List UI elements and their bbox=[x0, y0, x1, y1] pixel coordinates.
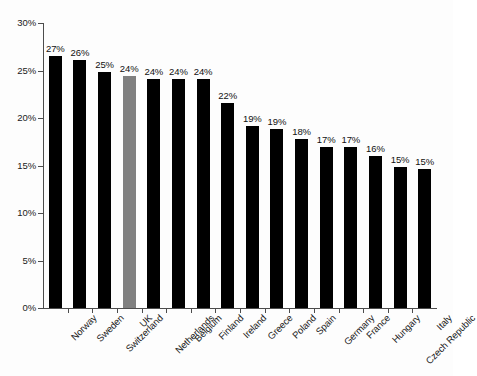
y-axis-tick-mark bbox=[38, 213, 43, 214]
bar-value-label: 26% bbox=[64, 48, 96, 58]
bar bbox=[320, 147, 333, 309]
bar bbox=[270, 129, 283, 308]
x-axis-category-label: Poland bbox=[290, 313, 317, 340]
bar-value-label: 17% bbox=[335, 135, 367, 145]
y-axis-tick-label: 0% bbox=[22, 303, 36, 313]
bar-value-label: 19% bbox=[261, 117, 293, 127]
plot-area: 0%5%10%15%20%25%30% 27%26%25%24%24%24%24… bbox=[43, 23, 437, 308]
x-axis-category-label: Ireland bbox=[241, 313, 268, 340]
bar bbox=[246, 126, 259, 308]
bar-value-label: 16% bbox=[359, 144, 391, 154]
bar bbox=[172, 79, 185, 308]
bar bbox=[369, 156, 382, 308]
bar bbox=[221, 103, 234, 308]
x-axis-tick-mark bbox=[265, 308, 266, 313]
y-axis-tick-label: 15% bbox=[17, 161, 36, 171]
bar bbox=[98, 72, 111, 308]
x-axis-tick-mark bbox=[339, 308, 340, 313]
bar bbox=[344, 147, 357, 309]
x-axis-tick-mark bbox=[314, 308, 315, 313]
y-axis-tick-mark bbox=[38, 308, 43, 309]
x-axis-category-label: Spain bbox=[314, 313, 338, 337]
y-axis-tick-mark bbox=[38, 23, 43, 24]
x-axis-tick-mark bbox=[240, 308, 241, 313]
x-axis-category-label: Norway bbox=[70, 313, 99, 342]
y-axis-tick-mark bbox=[38, 118, 43, 119]
x-axis-tick-mark bbox=[289, 308, 290, 313]
bar-value-label: 24% bbox=[187, 67, 219, 77]
y-axis-tick-mark bbox=[38, 166, 43, 167]
y-axis-tick-label: 25% bbox=[17, 66, 36, 76]
x-axis-category-label: Italy bbox=[435, 313, 454, 332]
bar bbox=[123, 76, 136, 308]
bar bbox=[295, 139, 308, 308]
bar bbox=[147, 79, 160, 308]
x-axis-tick-mark bbox=[68, 308, 69, 313]
y-axis-tick-label: 30% bbox=[17, 18, 36, 28]
y-axis-tick-label: 5% bbox=[22, 256, 36, 266]
x-axis-category-label: Greece bbox=[266, 313, 294, 341]
y-axis-tick-mark bbox=[38, 71, 43, 72]
y-axis-tick-mark bbox=[38, 261, 43, 262]
bar-value-label: 22% bbox=[212, 91, 244, 101]
x-axis-tick-mark bbox=[388, 308, 389, 313]
x-axis-category-label: Sweden bbox=[95, 313, 126, 344]
x-axis-tick-mark bbox=[363, 308, 364, 313]
x-axis-tick-mark bbox=[142, 308, 143, 313]
bar bbox=[197, 79, 210, 308]
x-axis-category-label: Hungary bbox=[391, 313, 423, 345]
bar bbox=[49, 56, 62, 308]
x-axis-tick-mark bbox=[191, 308, 192, 313]
bar-value-label: 15% bbox=[409, 157, 441, 167]
x-axis-tick-mark bbox=[166, 308, 167, 313]
bar bbox=[73, 60, 86, 308]
y-axis-tick-label: 10% bbox=[17, 208, 36, 218]
bar bbox=[394, 167, 407, 308]
bar bbox=[418, 169, 431, 308]
y-axis-tick-label: 20% bbox=[17, 113, 36, 123]
